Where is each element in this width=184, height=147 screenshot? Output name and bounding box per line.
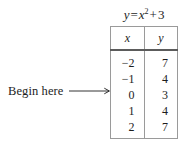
cell-y-value: 4 bbox=[154, 103, 168, 119]
table-header-row: x y bbox=[111, 27, 178, 51]
long-right-arrow-icon bbox=[69, 86, 111, 96]
cell-x: 2 bbox=[111, 119, 145, 139]
table-row: 1 4 bbox=[111, 103, 178, 119]
cell-x-value: −2 bbox=[121, 55, 135, 71]
cell-x: −1 bbox=[111, 71, 145, 87]
cell-y-value: 7 bbox=[154, 119, 168, 135]
column-header-x: x bbox=[111, 27, 145, 51]
value-table: x y −2 7 −1 4 0 3 1 4 2 7 bbox=[110, 26, 178, 139]
table-header: x y bbox=[111, 27, 178, 51]
equation-plus: + bbox=[149, 7, 158, 22]
cell-x-value: 0 bbox=[121, 87, 135, 103]
table-row: −2 7 bbox=[111, 50, 178, 71]
begin-here-annotation: Begin here bbox=[8, 82, 110, 100]
begin-here-label: Begin here bbox=[8, 83, 64, 99]
cell-y-value: 3 bbox=[154, 87, 168, 103]
cell-x: 1 bbox=[111, 103, 145, 119]
cell-y: 7 bbox=[145, 119, 178, 139]
equation-equals: = bbox=[129, 7, 138, 22]
cell-y: 4 bbox=[145, 103, 178, 119]
cell-y-value: 4 bbox=[154, 71, 168, 87]
equation-exponent: 2 bbox=[145, 7, 149, 16]
cell-y: 3 bbox=[145, 87, 178, 103]
equation-constant: 3 bbox=[158, 7, 165, 22]
table-row: −1 4 bbox=[111, 71, 178, 87]
cell-x: 0 bbox=[111, 87, 145, 103]
table-body: −2 7 −1 4 0 3 1 4 2 7 bbox=[111, 50, 178, 139]
cell-y: 4 bbox=[145, 71, 178, 87]
cell-x: −2 bbox=[111, 50, 145, 71]
cell-x-value: 1 bbox=[121, 103, 135, 119]
figure-root: y=x2+3 x y −2 7 −1 4 0 3 bbox=[0, 0, 184, 147]
cell-x-value: −1 bbox=[121, 71, 135, 87]
cell-y-value: 7 bbox=[154, 55, 168, 71]
cell-x-value: 2 bbox=[121, 119, 135, 135]
table-row: 2 7 bbox=[111, 119, 178, 139]
equation-title: y=x2+3 bbox=[110, 7, 178, 23]
column-header-y: y bbox=[145, 27, 178, 51]
table-row: 0 3 bbox=[111, 87, 178, 103]
cell-y: 7 bbox=[145, 50, 178, 71]
